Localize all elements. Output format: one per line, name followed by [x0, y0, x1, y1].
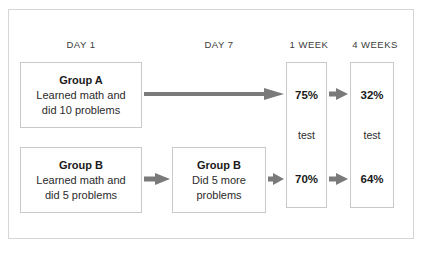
box-group-b-day7-line2: problems: [196, 188, 241, 203]
column-label-1week: 1 WEEK: [285, 39, 333, 50]
diagram-figure: DAY 1 DAY 7 1 WEEK 4 WEEKS Group A Learn…: [0, 0, 424, 257]
result-4weeks-group-a-score: 32%: [351, 89, 393, 101]
result-1week-group-b-score: 70%: [287, 173, 326, 185]
box-group-b-line2: did 5 problems: [45, 188, 117, 203]
results-column-1week: 75% test 70%: [286, 62, 327, 208]
box-group-b: Group B Learned math and did 5 problems: [20, 147, 142, 213]
result-1week-group-a-score: 75%: [287, 89, 326, 101]
arrow-right-icon-day7-to-1week: [268, 172, 284, 186]
arrow-right-icon-1week-to-4weeks-top: [329, 87, 348, 101]
box-group-a-line2: did 10 problems: [42, 103, 120, 118]
box-group-b-title: Group B: [59, 158, 103, 173]
box-group-b-day7-title: Group B: [197, 158, 241, 173]
arrow-right-icon-group-b-to-day7: [144, 172, 170, 186]
column-label-day7: DAY 7: [170, 39, 268, 50]
box-group-b-day7: Group B Did 5 more problems: [172, 147, 266, 213]
arrow-right-icon-group-a-to-1week: [144, 87, 284, 101]
result-1week-test-label: test: [287, 129, 326, 141]
column-label-4weeks: 4 WEEKS: [348, 39, 402, 50]
box-group-b-day7-line1: Did 5 more: [192, 173, 246, 188]
arrow-right-icon-1week-to-4weeks-bottom: [329, 172, 348, 186]
box-group-b-line1: Learned math and: [36, 173, 125, 188]
box-group-a: Group A Learned math and did 10 problems: [20, 62, 142, 128]
results-column-4weeks: 32% test 64%: [350, 62, 394, 208]
box-group-a-line1: Learned math and: [36, 88, 125, 103]
column-label-day1: DAY 1: [20, 39, 142, 50]
box-group-a-title: Group A: [59, 73, 103, 88]
result-4weeks-test-label: test: [351, 129, 393, 141]
result-4weeks-group-b-score: 64%: [351, 173, 393, 185]
